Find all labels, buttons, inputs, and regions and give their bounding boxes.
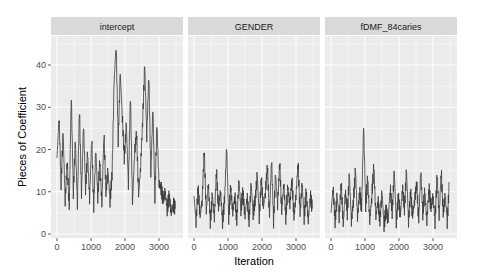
svg-text:0: 0	[328, 242, 333, 252]
facet-gender: GENDER	[188, 17, 320, 238]
y-tick-10: 10	[36, 187, 51, 197]
facet-intercept: intercept	[51, 17, 183, 238]
trace-plot: intercept GENDER fDMF_84caries 0 10 20 3…	[0, 0, 477, 276]
y-tick-20: 20	[36, 145, 51, 155]
svg-text:3000: 3000	[286, 242, 306, 252]
y-axis-title: Pieces of Coefficient	[16, 87, 28, 187]
y-tick-30: 30	[36, 102, 51, 112]
x-axis-panel-3: 0 1000 2000 3000	[328, 238, 443, 252]
svg-text:3000: 3000	[149, 242, 169, 252]
panel-background	[325, 36, 457, 238]
x-axis-panel-2: 0 1000 2000 3000	[191, 238, 306, 252]
y-tick-40: 40	[36, 60, 51, 70]
svg-text:2000: 2000	[115, 242, 135, 252]
svg-text:40: 40	[36, 60, 46, 70]
svg-text:0: 0	[54, 242, 59, 252]
svg-text:1000: 1000	[81, 242, 101, 252]
x-axis-title: Iteration	[234, 255, 274, 267]
svg-text:30: 30	[36, 102, 46, 112]
strip-label-gender: GENDER	[235, 22, 274, 32]
svg-text:0: 0	[191, 242, 196, 252]
strip-label-intercept: intercept	[100, 22, 135, 32]
y-axis: 0 10 20 30 40	[36, 60, 51, 239]
svg-text:3000: 3000	[423, 242, 443, 252]
svg-text:20: 20	[36, 145, 46, 155]
svg-text:2000: 2000	[252, 242, 272, 252]
svg-text:2000: 2000	[389, 242, 409, 252]
svg-text:10: 10	[36, 187, 46, 197]
x-axis-panel-1: 0 1000 2000 3000	[54, 238, 169, 252]
facet-fdmf-84caries: fDMF_84caries	[325, 17, 457, 238]
svg-text:1000: 1000	[218, 242, 238, 252]
svg-text:1000: 1000	[355, 242, 375, 252]
y-tick-0: 0	[41, 229, 51, 239]
svg-text:0: 0	[41, 229, 46, 239]
strip-label-fdmf-84caries: fDMF_84caries	[360, 22, 422, 32]
